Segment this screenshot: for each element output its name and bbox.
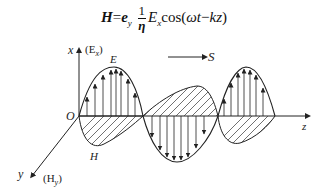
origin-label: O <box>66 109 75 124</box>
y-component-close: ) <box>58 172 62 184</box>
wave-figure <box>0 0 328 193</box>
e-label: E <box>110 53 117 65</box>
x-component-text: (E <box>85 43 95 55</box>
y-component-label: (Hy) <box>43 172 62 187</box>
e-field-vectors <box>87 69 263 160</box>
y-axis <box>32 116 79 176</box>
e-field-curve <box>79 67 275 162</box>
x-axis-label: x <box>68 43 73 58</box>
y-component-text: (H <box>43 172 55 184</box>
em-wave-diagram: H=ey 1ηExcos(ωt−kz) <box>0 0 328 193</box>
x-component-label: (Ex) <box>85 43 103 58</box>
x-component-close: ) <box>99 43 103 55</box>
s-label: S <box>208 49 215 65</box>
y-axis-label: y <box>18 167 23 182</box>
z-axis-label: z <box>302 120 306 132</box>
h-label: H <box>90 150 98 162</box>
